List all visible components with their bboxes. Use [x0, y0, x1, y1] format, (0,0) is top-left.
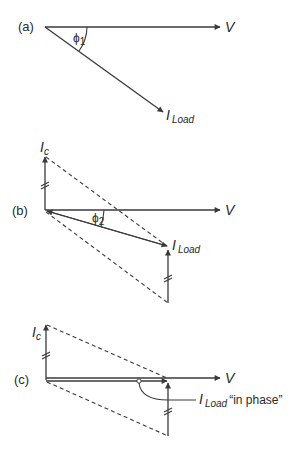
phase-angle-symbol: ϕ2	[92, 211, 105, 227]
construction-line	[47, 382, 168, 436]
load-current-annotation: ILoad“in phase”	[199, 391, 283, 409]
panel-c: (c) V Ic ILoad“in phase”	[14, 324, 283, 436]
panel-a-label: (a)	[18, 19, 34, 34]
voltage-label: V	[225, 202, 236, 218]
panel-a: (a) V ϕ1 ILoad	[18, 19, 236, 125]
construction-line	[46, 157, 167, 246]
callout-dot	[137, 379, 141, 383]
phase-angle-symbol: ϕ1	[73, 31, 86, 47]
construction-line	[46, 212, 168, 303]
panel-b: (b) V Ic ϕ2 ILoad	[12, 139, 236, 303]
load-current-phasor	[45, 27, 163, 112]
voltage-label: V	[225, 19, 236, 35]
capacitor-current-label: Ic	[32, 324, 41, 342]
voltage-label: V	[225, 370, 236, 386]
phasor-diagram: (a) V ϕ1 ILoad (b) V Ic ϕ2 ILoad (c)	[0, 0, 296, 461]
panel-b-label: (b)	[12, 203, 28, 218]
load-current-label: ILoad	[172, 237, 201, 255]
load-current-phasor	[47, 211, 167, 246]
capacitor-current-label: Ic	[40, 139, 49, 157]
panel-c-label: (c)	[14, 372, 29, 387]
construction-line	[47, 325, 167, 378]
load-current-label: ILoad	[166, 107, 195, 125]
